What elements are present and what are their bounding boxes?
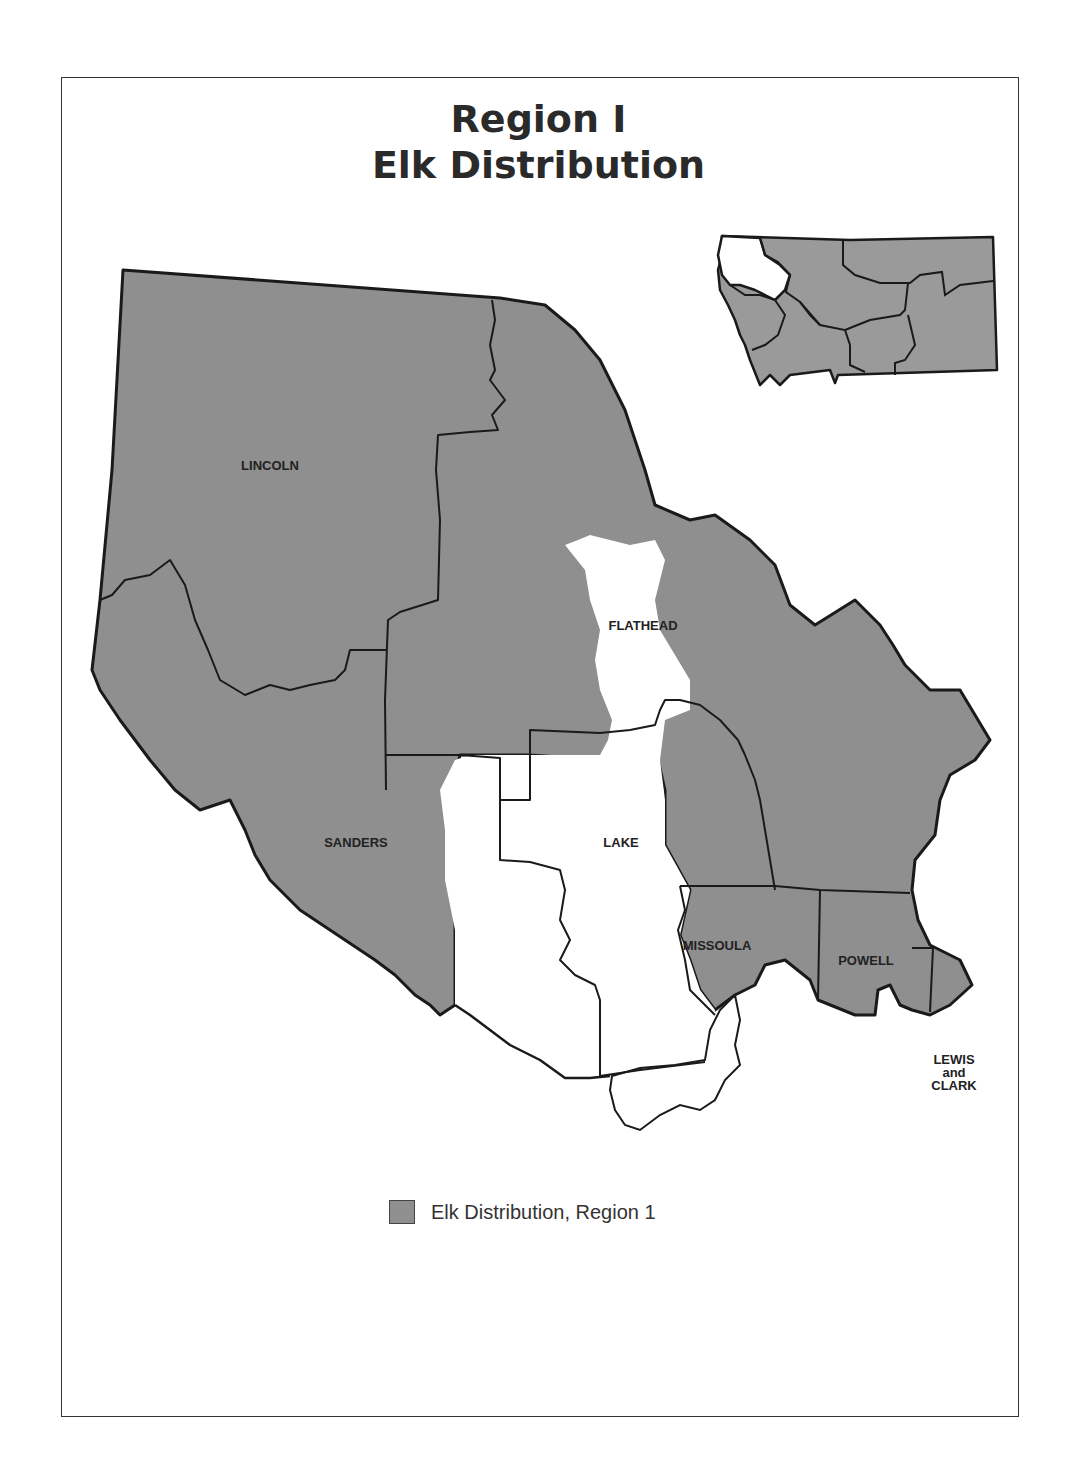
label-lincoln: LINCOLN: [241, 458, 299, 473]
label-sanders: SANDERS: [324, 835, 388, 850]
montana-inset-map: [718, 236, 997, 385]
legend-swatch-elk: [389, 1200, 415, 1224]
label-missoula: MISSOULA: [683, 938, 752, 953]
label-powell: POWELL: [838, 953, 894, 968]
label-clark: CLARK: [931, 1078, 977, 1093]
region-map: LINCOLN FLATHEAD SANDERS LAKE MISSOULA P…: [0, 0, 1077, 1480]
label-flathead: FLATHEAD: [608, 618, 677, 633]
label-lake: LAKE: [603, 835, 639, 850]
map-legend: Elk Distribution, Region 1: [389, 1200, 656, 1224]
legend-label: Elk Distribution, Region 1: [431, 1201, 656, 1224]
